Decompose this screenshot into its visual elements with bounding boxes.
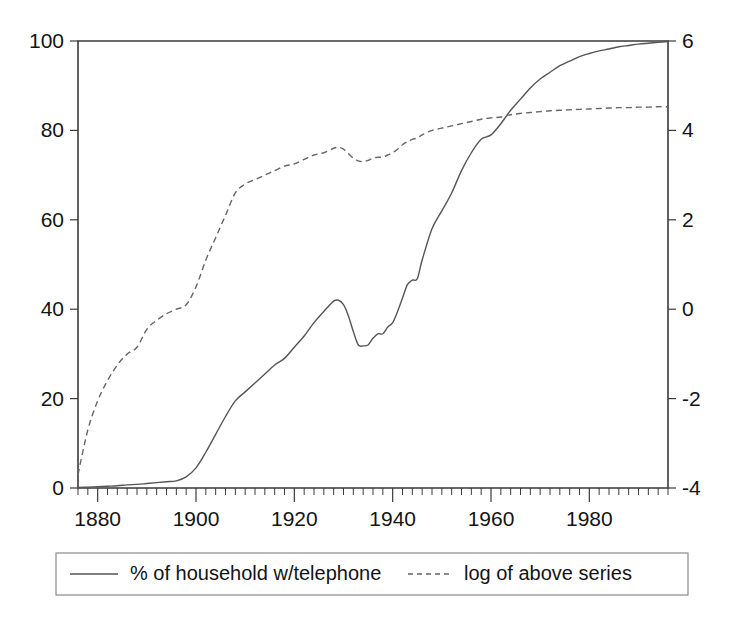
y-axis-right-ticks [668,41,676,488]
legend-label-log-series: log of above series [464,562,632,584]
line-chart: 020406080100 -4-20246 188019001920194019… [0,0,735,621]
y-tick-label-left: 100 [29,29,64,52]
y-axis-left-tick-labels: 020406080100 [29,29,64,499]
x-tick-label: 1920 [271,507,318,530]
x-tick-label: 1960 [468,507,515,530]
series-group [78,41,668,487]
y-tick-label-right: -2 [682,387,701,410]
x-tick-label: 1940 [369,507,416,530]
y-tick-label-left: 60 [41,208,64,231]
y-tick-label-right: 2 [682,208,694,231]
series-line-telephone-pct [78,41,668,487]
series-line-log-series [78,107,668,475]
legend: % of household w/telephone log of above … [56,553,688,595]
x-tick-label: 1880 [74,507,121,530]
legend-label-telephone-pct: % of household w/telephone [130,562,381,584]
y-tick-label-left: 40 [41,297,64,320]
y-tick-label-right: 6 [682,29,694,52]
y-axis-right-tick-labels: -4-20246 [682,29,701,499]
y-tick-label-left: 20 [41,387,64,410]
y-tick-label-right: -4 [682,476,701,499]
y-axis-left-ticks [70,41,78,488]
plot-frame [78,41,668,488]
axis-frame-path [78,41,668,488]
y-tick-label-left: 80 [41,118,64,141]
x-tick-label: 1980 [566,507,613,530]
y-tick-label-right: 0 [682,297,694,320]
x-axis-tick-labels: 188019001920194019601980 [74,507,612,530]
x-axis-minor-ticks [78,488,668,495]
y-tick-label-left: 0 [52,476,64,499]
x-tick-label: 1900 [173,507,220,530]
chart-figure: 020406080100 -4-20246 188019001920194019… [0,0,735,621]
y-tick-label-right: 4 [682,118,694,141]
